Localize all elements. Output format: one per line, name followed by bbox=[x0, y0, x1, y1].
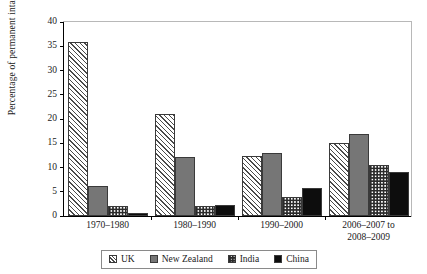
bar-china[interactable] bbox=[128, 213, 148, 216]
bar-uk[interactable] bbox=[68, 42, 88, 216]
bar-china[interactable] bbox=[389, 172, 409, 216]
legend-label: China bbox=[286, 253, 309, 265]
bar-china[interactable] bbox=[302, 188, 322, 216]
legend-item-india[interactable]: India bbox=[228, 253, 260, 265]
bar-group bbox=[238, 22, 325, 216]
y-tick-label: 35 bbox=[48, 39, 58, 52]
bar-new-zealand[interactable] bbox=[262, 153, 282, 216]
bar-group-bars bbox=[238, 22, 325, 216]
bar-uk[interactable] bbox=[329, 143, 349, 216]
bar-new-zealand[interactable] bbox=[175, 157, 195, 216]
chart-legend: UKNew ZealandIndiaChina bbox=[101, 250, 317, 269]
bar-group bbox=[325, 22, 412, 216]
y-tick-label: 15 bbox=[48, 136, 58, 149]
x-axis-category-label: 1980–1990 bbox=[151, 220, 238, 243]
legend-label: India bbox=[240, 253, 260, 265]
bar-uk[interactable] bbox=[155, 114, 175, 216]
bar-groups bbox=[64, 22, 412, 216]
bar-new-zealand[interactable] bbox=[349, 134, 369, 216]
y-tick-label: 30 bbox=[48, 64, 58, 77]
legend-item-uk[interactable]: UK bbox=[109, 253, 135, 265]
y-tick-label: 40 bbox=[48, 15, 58, 28]
bar-group-bars bbox=[64, 22, 151, 216]
y-tick-label: 20 bbox=[48, 112, 58, 125]
y-axis-title: Percentage of permanent intake bbox=[7, 0, 17, 153]
bar-india[interactable] bbox=[282, 197, 302, 216]
bar-group-bars bbox=[325, 22, 412, 216]
legend-item-china[interactable]: China bbox=[274, 253, 309, 265]
x-axis-category-labels: 1970–19801980–19901990–20002006–2007 to … bbox=[64, 220, 412, 243]
bar-india[interactable] bbox=[108, 206, 128, 216]
bar-chart-figure: Percentage of permanent intake 051015202… bbox=[0, 0, 427, 274]
legend-swatch-icon bbox=[274, 255, 282, 263]
y-tick-label: 10 bbox=[48, 161, 58, 174]
bar-new-zealand[interactable] bbox=[88, 186, 108, 216]
y-tick-label: 25 bbox=[48, 88, 58, 101]
y-tick-label: 0 bbox=[52, 209, 57, 222]
legend-swatch-icon bbox=[109, 255, 117, 263]
x-axis-category-label: 1990–2000 bbox=[238, 220, 325, 243]
legend-label: New Zealand bbox=[162, 253, 213, 265]
legend-swatch-icon bbox=[150, 255, 158, 263]
x-axis-category-label: 1970–1980 bbox=[64, 220, 151, 243]
bar-uk[interactable] bbox=[242, 156, 262, 216]
x-axis-category-label: 2006–2007 to 2008–2009 bbox=[325, 220, 412, 243]
bar-china[interactable] bbox=[215, 205, 235, 216]
y-tick-label: 5 bbox=[52, 185, 57, 198]
legend-swatch-icon bbox=[228, 255, 236, 263]
bar-group bbox=[64, 22, 151, 216]
legend-label: UK bbox=[121, 253, 135, 265]
bar-group bbox=[151, 22, 238, 216]
bar-india[interactable] bbox=[195, 206, 215, 216]
bar-group-bars bbox=[151, 22, 238, 216]
bar-india[interactable] bbox=[369, 165, 389, 216]
legend-item-new-zealand[interactable]: New Zealand bbox=[150, 253, 213, 265]
